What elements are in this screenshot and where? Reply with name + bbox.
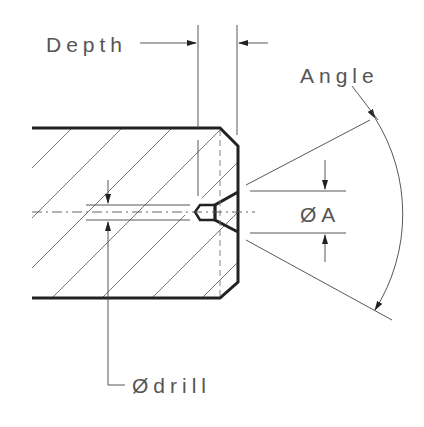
angle-label: Angle xyxy=(300,64,379,87)
diameter-drill-label: Ødrill xyxy=(132,374,211,397)
depth-label: Depth xyxy=(46,33,127,56)
drawing-canvas: Depth Angle ØA Ødrill xyxy=(0,0,424,427)
diameter-a-label: ØA xyxy=(300,203,340,226)
